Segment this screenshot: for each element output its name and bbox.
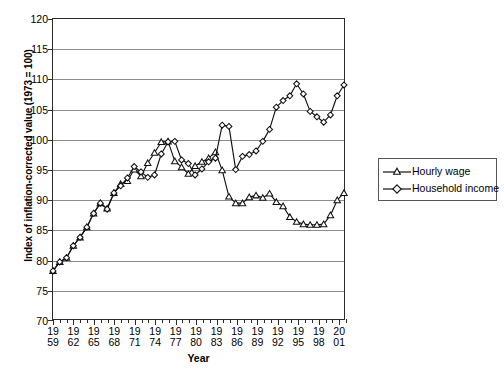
x-tick-label-year: 74 bbox=[149, 337, 161, 348]
x-tick-minor bbox=[312, 319, 313, 323]
data-point-marker bbox=[239, 153, 245, 159]
y-tick bbox=[48, 140, 53, 141]
x-tick-minor bbox=[251, 319, 252, 323]
data-point-marker bbox=[267, 126, 273, 132]
data-point-marker bbox=[341, 190, 347, 196]
data-point-marker bbox=[233, 167, 239, 173]
data-point-marker bbox=[294, 81, 300, 87]
x-tick-minor bbox=[169, 319, 170, 323]
legend-item-hourly-wage: Hourly wage bbox=[379, 163, 496, 180]
x-tick-label: 1968 bbox=[108, 326, 120, 348]
triangle-marker-icon bbox=[382, 165, 412, 179]
x-tick-minor bbox=[285, 319, 286, 323]
series-layer bbox=[53, 19, 344, 319]
y-tick-label: 120 bbox=[30, 14, 48, 25]
x-tick-label: 1980 bbox=[190, 326, 202, 348]
chart-figure: Index of inflation-corrected value (1973… bbox=[0, 0, 504, 379]
data-point-marker bbox=[199, 159, 205, 165]
x-tick-label-year: 62 bbox=[68, 337, 80, 348]
data-point-marker bbox=[226, 193, 232, 199]
data-point-marker bbox=[219, 167, 225, 173]
x-tick-label-year: 65 bbox=[88, 337, 100, 348]
legend-label: Household income bbox=[412, 183, 499, 194]
x-tick-minor bbox=[142, 319, 143, 323]
x-tick-minor bbox=[182, 319, 183, 323]
data-point-marker bbox=[212, 155, 218, 161]
x-tick-minor bbox=[101, 319, 102, 323]
x-tick-minor bbox=[332, 319, 333, 323]
x-tick-label-year: 89 bbox=[252, 337, 264, 348]
data-point-marker bbox=[266, 190, 272, 196]
y-tick bbox=[48, 230, 53, 231]
data-point-marker bbox=[287, 214, 293, 220]
x-tick-label: 1998 bbox=[313, 326, 325, 348]
x-tick-minor bbox=[326, 319, 327, 323]
x-tick-minor bbox=[189, 319, 190, 323]
x-tick-minor bbox=[121, 319, 122, 323]
x-tick-minor bbox=[128, 319, 129, 323]
chart-legend: Hourly wage Household income bbox=[378, 158, 497, 201]
y-tick bbox=[48, 291, 53, 292]
diamond-marker-icon bbox=[382, 182, 412, 196]
x-tick-minor bbox=[291, 319, 292, 323]
y-tick bbox=[48, 49, 53, 50]
y-tick bbox=[48, 170, 53, 171]
data-point-marker bbox=[145, 160, 151, 166]
x-tick-label-year: 86 bbox=[231, 337, 243, 348]
series-hourly-wage bbox=[50, 138, 347, 273]
data-point-marker bbox=[226, 123, 232, 129]
x-tick-minor bbox=[223, 319, 224, 323]
x-tick-label: 1959 bbox=[47, 326, 59, 348]
x-tick-label-year: 92 bbox=[272, 337, 284, 348]
x-tick-minor bbox=[305, 319, 306, 323]
data-point-marker bbox=[151, 150, 157, 156]
data-point-marker bbox=[158, 151, 164, 157]
legend-label: Hourly wage bbox=[412, 166, 470, 177]
y-tick-label: 115 bbox=[31, 44, 48, 55]
data-point-marker bbox=[300, 91, 306, 97]
y-tick-label: 85 bbox=[36, 225, 48, 236]
x-tick-label: 1977 bbox=[170, 326, 182, 348]
plot-area: 7075808590951001051101151201959196219651… bbox=[52, 18, 345, 320]
x-tick-label: 1992 bbox=[272, 326, 284, 348]
x-tick-label: 1962 bbox=[68, 326, 80, 348]
series-household-income bbox=[50, 81, 347, 274]
data-point-marker bbox=[327, 212, 333, 218]
x-tick-label: 1971 bbox=[129, 326, 141, 348]
data-point-marker bbox=[280, 203, 286, 209]
y-tick bbox=[48, 110, 53, 111]
x-tick-minor bbox=[87, 319, 88, 323]
x-tick-label-year: 59 bbox=[47, 337, 59, 348]
series-line bbox=[53, 84, 344, 271]
data-point-marker bbox=[246, 152, 252, 158]
data-point-marker bbox=[179, 157, 185, 163]
x-tick-minor bbox=[162, 319, 163, 323]
x-tick-label-year: 83 bbox=[211, 337, 223, 348]
x-tick-label: 2001 bbox=[333, 326, 345, 348]
x-tick-label-year: 68 bbox=[108, 337, 120, 348]
x-tick-minor bbox=[60, 319, 61, 323]
y-tick-label: 100 bbox=[30, 135, 48, 146]
data-point-marker bbox=[172, 138, 178, 144]
x-axis-title: Year bbox=[52, 352, 345, 364]
y-tick-label: 105 bbox=[30, 104, 48, 115]
x-tick-minor bbox=[244, 319, 245, 323]
x-tick-label: 1974 bbox=[149, 326, 161, 348]
x-tick-label-year: 98 bbox=[313, 337, 325, 348]
x-tick-minor bbox=[67, 319, 68, 323]
x-tick-label: 1989 bbox=[252, 326, 264, 348]
x-tick-label-year: 95 bbox=[292, 337, 304, 348]
legend-item-household-income: Household income bbox=[379, 180, 496, 197]
x-tick-label-year: 01 bbox=[333, 337, 345, 348]
data-point-marker bbox=[192, 163, 198, 169]
x-tick-label: 1986 bbox=[231, 326, 243, 348]
data-point-marker bbox=[185, 161, 191, 167]
x-tick-label-year: 71 bbox=[129, 337, 141, 348]
y-tick-label: 80 bbox=[36, 255, 48, 266]
data-point-marker bbox=[152, 172, 158, 178]
x-tick-minor bbox=[230, 319, 231, 323]
data-point-marker bbox=[219, 122, 225, 128]
x-tick-label: 1965 bbox=[88, 326, 100, 348]
data-point-marker bbox=[172, 158, 178, 164]
y-tick-label: 90 bbox=[36, 195, 48, 206]
